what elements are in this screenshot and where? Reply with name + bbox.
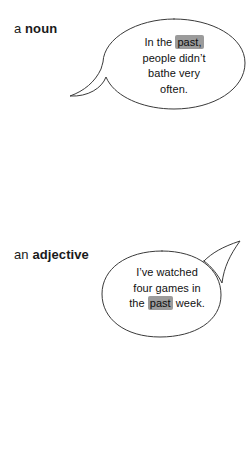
bubble-text-noun: In the past, people didn’t bathe very of… [114,35,234,97]
parts-of-speech-worksheet: a noun In the past, people didn’t bathe … [0,0,250,453]
entry-adverb: an adverb Everyone cheered as the prince… [0,339,250,453]
highlighted-word: past, [175,35,203,49]
speech-bubble-noun: In the past, people didn’t bathe very of… [100,16,248,112]
bubble-line: In the past, [114,35,234,51]
pos-word: noun [25,21,57,36]
entry-preposition: a preposition The children tiptoed past … [0,226,250,339]
pos-label-noun: a noun [14,21,57,37]
pos-article: a [14,21,21,36]
bubble-line: bathe very [114,66,234,82]
bubble-line: people didn’t [114,51,234,67]
entry-noun: a noun In the past, people didn’t bathe … [0,0,250,113]
entry-adjective: an adjective I’ve watched four games in … [0,113,250,226]
bubble-line: often. [114,82,234,98]
